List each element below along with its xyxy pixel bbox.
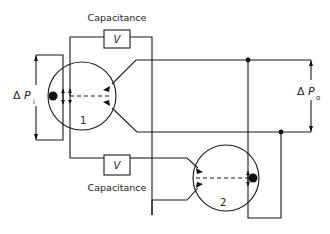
- input-pressure-delta: Δ: [13, 89, 21, 102]
- element-2-input-bottom: [152, 188, 198, 215]
- fluidic-circuit-diagram: Capacitance V Δ P i 1: [0, 0, 330, 234]
- element-1-number: 1: [80, 115, 86, 126]
- capacitor-bottom-symbol: V: [114, 160, 122, 171]
- capacitor-top-symbol: V: [114, 34, 122, 45]
- output-pressure-delta: Δ: [297, 85, 305, 98]
- element-2-number: 2: [220, 197, 226, 208]
- input-pressure-var: P: [24, 89, 31, 102]
- capacitance-bottom-label: Capacitance: [88, 182, 147, 193]
- output-pressure-sub: o: [316, 94, 320, 102]
- output-pressure-var: P: [308, 85, 315, 98]
- output-line-top: [112, 60, 311, 84]
- capacitance-top-label: Capacitance: [88, 12, 147, 23]
- element-2-input-top: [152, 158, 198, 168]
- output-line-bottom: [112, 108, 311, 132]
- input-pressure-sub: i: [33, 98, 35, 106]
- element-2-output-loop: [248, 60, 281, 218]
